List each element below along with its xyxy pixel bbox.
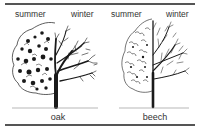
oak-summer-foliage	[12, 22, 55, 94]
beech-name-label: beech	[143, 113, 168, 122]
beech-summer-foliage	[122, 19, 152, 92]
oak-winter-branches	[55, 26, 97, 107]
bottom-rule	[5, 124, 195, 126]
top-rule	[5, 3, 195, 5]
beech-winter-branches	[153, 21, 189, 107]
beech-tree-illustration	[113, 15, 193, 111]
oak-tree-illustration	[8, 15, 102, 111]
oak-name-label: oak	[51, 113, 66, 122]
